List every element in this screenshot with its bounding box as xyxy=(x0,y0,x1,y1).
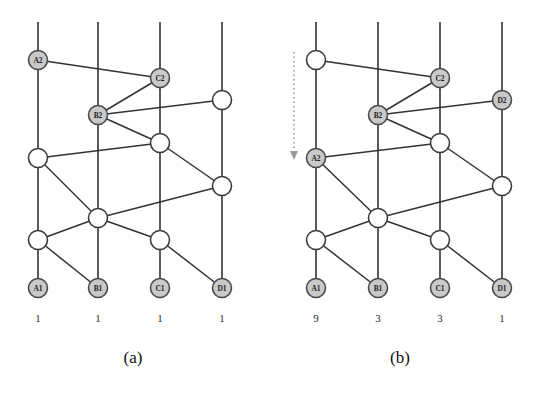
panel-b: C2D2B2A2A1B1C1D19331(b) xyxy=(267,0,533,393)
node-D1[interactable]: D1 xyxy=(493,279,512,298)
node-circle xyxy=(29,149,48,168)
edge-a-A3-a-B3 xyxy=(38,158,98,218)
node-label: B2 xyxy=(94,111,103,120)
node-a-C4[interactable] xyxy=(151,231,170,250)
node-label: A1 xyxy=(34,284,43,293)
edge-b-C3-b-D4 xyxy=(440,143,502,186)
node-circle xyxy=(213,177,232,196)
node-label: B1 xyxy=(374,284,383,293)
node-label: C2 xyxy=(156,74,165,83)
node-a-A3[interactable] xyxy=(29,149,48,168)
node-label: A2 xyxy=(312,154,321,163)
node-a-D4[interactable] xyxy=(213,177,232,196)
edge-a-A2-a-C2 xyxy=(38,60,160,78)
node-circle xyxy=(213,91,232,110)
node-A2[interactable]: A2 xyxy=(29,51,48,70)
edge-b-C4-b-D1 xyxy=(440,240,502,288)
edge-a-C4-a-D1 xyxy=(160,240,222,288)
node-label: C1 xyxy=(156,284,165,293)
node-circle xyxy=(431,134,450,153)
node-circle xyxy=(369,209,388,228)
node-b-A2[interactable] xyxy=(307,51,326,70)
node-a-B3[interactable] xyxy=(89,209,108,228)
node-C1[interactable]: C1 xyxy=(151,279,170,298)
node-label: C2 xyxy=(436,74,445,83)
edge-b-A4-b-B1 xyxy=(316,240,378,288)
node-C1[interactable]: C1 xyxy=(431,279,450,298)
node-A2[interactable]: A2 xyxy=(307,149,326,168)
panel-a-canvas: A2C2B2A1B1C1D1 xyxy=(0,0,266,330)
edge-a-A4-a-B1 xyxy=(38,240,98,288)
node-label: D1 xyxy=(218,284,227,293)
node-a-D3[interactable] xyxy=(213,91,232,110)
node-circle xyxy=(89,209,108,228)
figure-root: A2C2B2A1B1C1D11111(a) C2D2B2A2A1B1C1D193… xyxy=(0,0,533,393)
node-D1[interactable]: D1 xyxy=(213,279,232,298)
node-B2[interactable]: B2 xyxy=(89,106,108,125)
edge-a-C3-a-D4 xyxy=(160,143,222,186)
node-b-D4[interactable] xyxy=(493,177,512,196)
time-arrow-head xyxy=(290,151,298,160)
node-D2[interactable]: D2 xyxy=(493,91,512,110)
node-label: A2 xyxy=(34,56,43,65)
node-label: D2 xyxy=(498,96,507,105)
count-B: 3 xyxy=(365,312,391,324)
edge-a-B2-a-C2 xyxy=(98,78,160,115)
edge-b-A3-b-B3 xyxy=(316,158,378,218)
count-B: 1 xyxy=(85,312,111,324)
node-a-C3[interactable] xyxy=(151,134,170,153)
panel-caption: (a) xyxy=(98,348,168,368)
node-circle xyxy=(307,231,326,250)
node-circle xyxy=(151,231,170,250)
node-label: A1 xyxy=(312,284,321,293)
node-C2[interactable]: C2 xyxy=(151,69,170,88)
node-label: C1 xyxy=(436,284,445,293)
edge-b-B2-b-C2 xyxy=(378,78,440,115)
count-A: 9 xyxy=(303,312,329,324)
edge-a-A3-a-C3 xyxy=(38,143,160,158)
node-circle xyxy=(493,177,512,196)
node-label: D1 xyxy=(498,284,507,293)
node-b-C3[interactable] xyxy=(431,134,450,153)
node-A1[interactable]: A1 xyxy=(307,279,326,298)
panel-b-canvas: C2D2B2A2A1B1C1D1 xyxy=(267,0,533,330)
node-C2[interactable]: C2 xyxy=(431,69,450,88)
node-B1[interactable]: B1 xyxy=(369,279,388,298)
count-C: 3 xyxy=(427,312,453,324)
node-b-B3[interactable] xyxy=(369,209,388,228)
node-circle xyxy=(307,51,326,70)
count-A: 1 xyxy=(25,312,51,324)
node-circle xyxy=(431,231,450,250)
count-D: 1 xyxy=(209,312,235,324)
node-A1[interactable]: A1 xyxy=(29,279,48,298)
panel-caption: (b) xyxy=(365,348,435,368)
count-D: 1 xyxy=(489,312,515,324)
node-B2[interactable]: B2 xyxy=(369,106,388,125)
node-b-C4[interactable] xyxy=(431,231,450,250)
count-C: 1 xyxy=(147,312,173,324)
node-circle xyxy=(29,231,48,250)
node-a-A4[interactable] xyxy=(29,231,48,250)
node-label: B1 xyxy=(94,284,103,293)
node-label: B2 xyxy=(374,111,383,120)
panel-a: A2C2B2A1B1C1D11111(a) xyxy=(0,0,266,393)
node-circle xyxy=(151,134,170,153)
node-B1[interactable]: B1 xyxy=(89,279,108,298)
node-b-A4[interactable] xyxy=(307,231,326,250)
